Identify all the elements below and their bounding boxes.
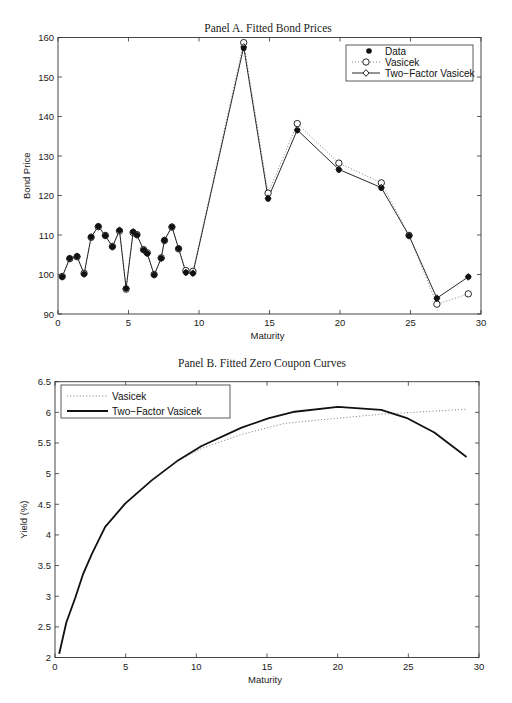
y-tick-label: 3.5 <box>38 560 51 571</box>
vasicek-curve <box>59 409 466 654</box>
x-tick-label: 5 <box>123 661 128 672</box>
legend-label-two-factor: Two−Factor Vasicek <box>112 406 203 417</box>
x-tick-label: 30 <box>474 661 485 672</box>
y-tick-label: 6.5 <box>38 376 51 387</box>
y-tick-label: 5.5 <box>38 437 51 448</box>
panel-b-legend: VasicekTwo−Factor Vasicek <box>61 385 230 418</box>
two-factor-curve <box>59 407 466 654</box>
x-tick-label: 0 <box>52 661 57 672</box>
x-tick-label: 10 <box>191 661 202 672</box>
y-tick-label: 3 <box>46 591 51 602</box>
y-tick-label: 2.5 <box>38 621 51 632</box>
x-tick-label: 25 <box>403 661 414 672</box>
y-tick-label: 5 <box>46 468 51 479</box>
legend-label-vasicek: Vasicek <box>112 391 147 402</box>
y-tick-label: 2 <box>46 652 51 663</box>
x-tick-label: 20 <box>332 661 343 672</box>
y-tick-label: 6 <box>46 407 51 418</box>
x-axis-label: Maturity <box>248 674 282 685</box>
y-tick-label: 4.5 <box>38 499 51 510</box>
x-tick-label: 15 <box>262 661 273 672</box>
panel-b-chart: 05101520253022.533.544.555.566.5Maturity… <box>0 0 512 703</box>
y-axis-label: Yield (%) <box>18 501 29 539</box>
y-tick-label: 4 <box>46 529 51 540</box>
